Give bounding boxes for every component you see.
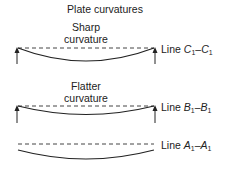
panel-flatter-curvature [15,105,158,123]
panel-sharp-curvature [15,47,158,64]
plate-curve-relaxed [18,150,154,159]
plate-curve-sharp [18,48,154,61]
plate-curve-flatter [18,106,154,115]
panel-relaxed [18,144,154,159]
curvature-drawing [0,0,226,170]
